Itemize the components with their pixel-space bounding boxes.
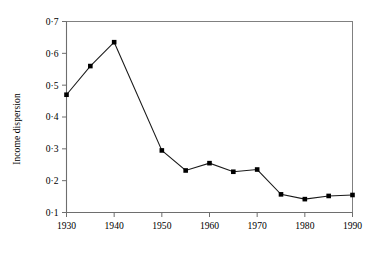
data-point bbox=[255, 167, 260, 172]
y-tick-label: 0·5 bbox=[46, 80, 59, 91]
data-point bbox=[279, 192, 284, 197]
x-tick-label: 1980 bbox=[295, 220, 314, 231]
y-tick-label: 0·7 bbox=[46, 16, 59, 27]
x-tick-label: 1930 bbox=[57, 220, 76, 231]
y-axis-ticks: 0·10·20·30·40·50·60·7 bbox=[46, 16, 67, 218]
data-point bbox=[112, 40, 117, 45]
x-axis-ticks: 1930194019501960197019801990 bbox=[57, 213, 362, 232]
y-tick-label: 0·1 bbox=[46, 207, 59, 218]
x-tick-label: 1950 bbox=[152, 220, 171, 231]
data-series bbox=[67, 42, 353, 199]
data-markers bbox=[64, 40, 355, 202]
y-tick-label: 0·6 bbox=[46, 48, 59, 59]
x-tick-label: 1940 bbox=[105, 220, 124, 231]
y-tick-label: 0·4 bbox=[46, 111, 59, 122]
data-point bbox=[88, 64, 93, 69]
y-tick-label: 0·2 bbox=[46, 175, 59, 186]
line-chart: 1930194019501960197019801990 0·10·20·30·… bbox=[0, 0, 376, 257]
x-tick-label: 1970 bbox=[248, 220, 267, 231]
data-point bbox=[207, 161, 212, 166]
data-point bbox=[231, 169, 236, 174]
y-tick-label: 0·3 bbox=[46, 143, 59, 154]
x-tick-label: 1960 bbox=[200, 220, 219, 231]
data-point bbox=[183, 168, 188, 173]
data-point bbox=[326, 194, 331, 199]
chart-page: Income dispersion 1930194019501960197019… bbox=[0, 0, 376, 257]
data-point bbox=[350, 193, 355, 198]
x-tick-label: 1990 bbox=[343, 220, 362, 231]
data-point bbox=[303, 197, 308, 202]
data-point bbox=[64, 92, 69, 97]
data-point bbox=[160, 148, 165, 153]
plot-frame bbox=[67, 22, 353, 213]
